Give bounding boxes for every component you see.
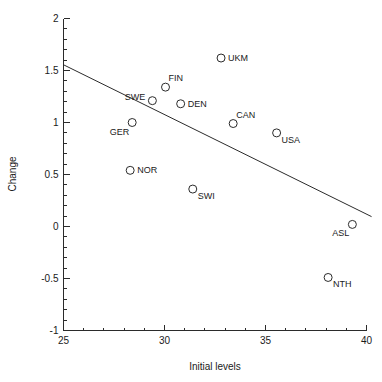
x-tick-label: 30 bbox=[159, 335, 171, 346]
data-point-marker bbox=[273, 129, 281, 137]
data-point-marker bbox=[217, 54, 225, 62]
data-point: CAN bbox=[229, 110, 255, 128]
x-axis-title: Initial levels bbox=[189, 361, 241, 372]
data-point-marker bbox=[128, 119, 136, 127]
data-point: FIN bbox=[162, 73, 184, 91]
regression-line bbox=[64, 65, 372, 217]
scatter-plot-figure: -1-0.500.511.52 25303540 UKMFINSWEDENGER… bbox=[0, 0, 382, 382]
data-point-label: UKM bbox=[228, 53, 248, 63]
data-point-label: ASL bbox=[332, 228, 349, 238]
x-tick-label: 40 bbox=[361, 335, 373, 346]
x-axis: 25303540 bbox=[58, 325, 373, 346]
y-tick-label: 0.5 bbox=[45, 169, 59, 180]
data-point-marker bbox=[324, 273, 332, 281]
y-axis-title: Change bbox=[7, 156, 18, 191]
data-points: UKMFINSWEDENGERCANUSANORSWIASLNTH bbox=[110, 53, 357, 289]
data-point-marker bbox=[229, 120, 237, 128]
data-point-label: NTH bbox=[333, 279, 352, 289]
data-point-marker bbox=[348, 220, 356, 228]
data-point-label: SWI bbox=[198, 191, 215, 201]
data-point-label: FIN bbox=[169, 73, 184, 83]
data-point-label: USA bbox=[282, 135, 301, 145]
y-axis: -1-0.500.511.52 bbox=[41, 13, 69, 336]
data-point-marker bbox=[177, 100, 185, 108]
plot-canvas: -1-0.500.511.52 25303540 UKMFINSWEDENGER… bbox=[0, 0, 382, 382]
regression-line-segment bbox=[64, 65, 372, 217]
data-point: USA bbox=[273, 129, 301, 145]
data-point-label: CAN bbox=[236, 110, 255, 120]
data-point: SWI bbox=[189, 185, 215, 201]
data-point: NTH bbox=[324, 273, 352, 289]
y-tick-label: 1.5 bbox=[45, 65, 59, 76]
x-tick-label: 35 bbox=[260, 335, 272, 346]
data-point-marker bbox=[126, 166, 134, 174]
data-point: NOR bbox=[126, 165, 158, 175]
data-point-marker bbox=[189, 185, 197, 193]
y-tick-label: 1 bbox=[53, 117, 59, 128]
y-tick-label: 0 bbox=[53, 221, 59, 232]
data-point-label: DEN bbox=[188, 99, 207, 109]
x-tick-label: 25 bbox=[58, 335, 70, 346]
data-point: GER bbox=[110, 119, 137, 137]
data-point: UKM bbox=[217, 53, 248, 63]
y-tick-label: -0.5 bbox=[41, 273, 59, 284]
y-tick-label: 2 bbox=[53, 13, 59, 24]
data-point-marker bbox=[148, 97, 156, 105]
data-point-label: NOR bbox=[137, 165, 158, 175]
data-point: ASL bbox=[332, 220, 356, 238]
data-point-marker bbox=[162, 83, 170, 91]
data-point-label: SWE bbox=[125, 92, 146, 102]
data-point-label: GER bbox=[110, 127, 130, 137]
data-point: DEN bbox=[177, 99, 207, 109]
